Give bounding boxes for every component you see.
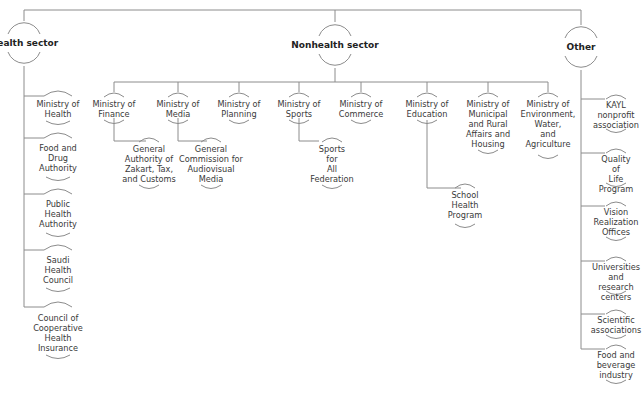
- node-general-authority-of-zakat-tax-customs: General Authority of Zakart, Tax, and Cu…: [122, 144, 176, 184]
- node-universities-and-research-centers: Universities and research centers: [592, 262, 640, 302]
- node-ministry-of-environment-water-agriculture: Ministry of Environment, Water, and Agri…: [521, 99, 576, 149]
- node-ministry-of-education: Ministry of Education: [406, 99, 449, 119]
- node-food-and-drug-authority: Food and Drug Authority: [39, 143, 77, 173]
- node-sports-for-all-federation: Sports for All Federation: [310, 144, 354, 184]
- node-ministry-of-sports: Ministry of Sports: [278, 99, 321, 119]
- node-ministry-of-commerce: Ministry of Commerce: [339, 99, 383, 119]
- node-quality-of-life-program: Quality of Life Program: [599, 154, 634, 194]
- node-health-sector: Health sector: [0, 38, 58, 48]
- connector-lines: [0, 0, 642, 401]
- org-diagram: Health sector Nonhealth sector Other Min…: [0, 0, 642, 401]
- node-scientific-associations: Scientific associations: [591, 315, 641, 335]
- node-saudi-health-council: Saudi Health Council: [43, 255, 73, 285]
- node-vision-realization-offices: Vision Realization Offices: [594, 207, 639, 237]
- node-ministry-of-planning: Ministry of Planning: [218, 99, 261, 119]
- node-food-and-beverage-industry: Food and beverage industry: [597, 350, 636, 380]
- node-other: Other: [567, 42, 596, 52]
- node-ministry-of-finance: Ministry of Finance: [93, 99, 136, 119]
- node-council-of-cooperative-health-insurance: Council of Cooperative Health Insurance: [33, 313, 83, 353]
- node-ministry-of-media: Ministry of Media: [157, 99, 200, 119]
- node-ministry-of-municipal-and-rural-affairs: Ministry of Municipal and Rural Affairs …: [466, 99, 510, 149]
- node-kayl-nonprofit-association: KAYL nonprofit association: [593, 100, 639, 130]
- node-public-health-authority: Public Health Authority: [39, 199, 77, 229]
- node-school-health-program: School Health Program: [448, 190, 483, 220]
- node-nonhealth-sector: Nonhealth sector: [291, 40, 378, 50]
- node-ministry-of-health: Ministry of Health: [37, 99, 80, 119]
- node-general-commission-for-audiovisual-media: General Commission for Audiovisual Media: [179, 144, 243, 184]
